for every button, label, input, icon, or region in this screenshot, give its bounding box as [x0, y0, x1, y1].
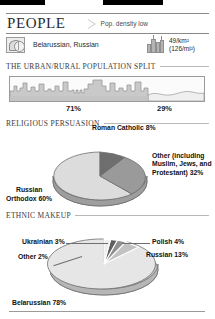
urban-percent-label: 71%	[66, 104, 81, 113]
religion-label-catholic: Roman Catholic 8%	[92, 124, 155, 132]
density-imperial: (126/mi²)	[169, 45, 195, 53]
heading-rule	[160, 66, 209, 67]
urban-rural-graphic	[10, 77, 204, 101]
urban-rural-labels: 71% 29%	[9, 104, 205, 116]
buildings-icon	[147, 37, 164, 53]
heading-rule	[75, 215, 209, 216]
language-label: Belarussian, Russian	[33, 41, 99, 48]
page-header: PEOPLE Pop. density low	[6, 13, 209, 34]
ethnic-pie-chart: Ukrainian 3% Polish 4% Russian 13% Other…	[0, 220, 215, 312]
people-page: PEOPLE Pop. density low Belarussian, Rus…	[0, 0, 215, 319]
pop-density-label: Pop. density low	[101, 20, 148, 27]
religion-label-orthodox-line2: Orthodox 60%	[6, 195, 52, 203]
leader-line-polish	[122, 243, 150, 244]
section-heading-ethnic: ETHNIC MAKEUP	[6, 211, 209, 220]
religion-pie-chart: Roman Catholic 8% Other (including Musli…	[0, 126, 215, 210]
ethnic-label-russian: Russian 13%	[146, 251, 188, 259]
fact-row: Belarussian, Russian 49/km² (126/mi²)	[6, 36, 209, 58]
triangle-right-icon	[88, 19, 96, 29]
leader-line-ukrainian	[66, 243, 108, 244]
ethnic-label-belarussian: Belarussian 78%	[12, 299, 66, 307]
religion-label-other: Other (including Muslim, Jews, and Prote…	[152, 152, 214, 177]
speech-globe-icon	[6, 37, 25, 53]
ethnic-label-polish: Polish 4%	[152, 238, 184, 246]
density-values: 49/km² (126/mi²)	[169, 37, 195, 53]
page-title: PEOPLE	[6, 16, 66, 31]
globe-shape	[14, 41, 25, 52]
rural-percent-label: 29%	[157, 104, 172, 113]
pop-density-tag: Pop. density low	[88, 19, 148, 29]
religion-label-orthodox-line1: Russian	[16, 186, 42, 194]
building-bar	[160, 40, 164, 53]
bottom-rule	[9, 311, 205, 312]
urban-rural-panel	[9, 76, 205, 102]
section-heading-text: ETHNIC MAKEUP	[6, 211, 71, 220]
section-heading-text: THE URBAN/RURAL POPULATION SPLIT	[6, 62, 156, 71]
ethnic-label-other: Other 2%	[18, 253, 48, 261]
ethnic-label-ukrainian: Ukrainian 3%	[22, 238, 65, 246]
section-heading-urban-rural: THE URBAN/RURAL POPULATION SPLIT	[6, 62, 209, 71]
density-metric: 49/km²	[169, 37, 195, 45]
